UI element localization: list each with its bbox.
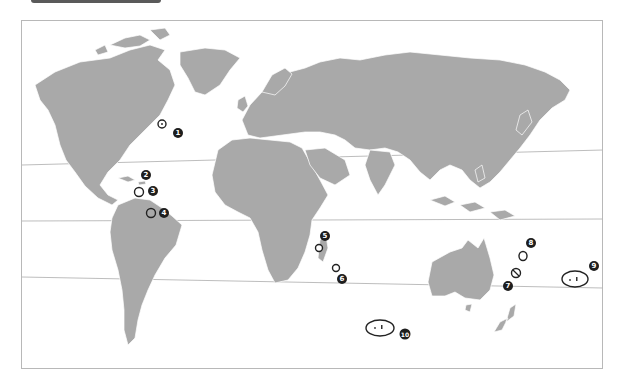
marker-3-label: 3 (151, 187, 156, 195)
great-britain (237, 96, 248, 112)
south-america (110, 198, 182, 345)
north-america (35, 45, 175, 205)
marker-10-label: 10 (401, 331, 409, 338)
marker-9-label: 9 (592, 262, 597, 270)
india (365, 150, 395, 195)
marker-6-ring[interactable] (333, 265, 340, 272)
marker-5-ring[interactable] (316, 245, 323, 252)
marker-6-label: 6 (340, 275, 345, 283)
world-map: 1 2 3 4 5 6 7 8 9 10 (0, 0, 631, 389)
tasmania (465, 304, 472, 312)
marker-7-label: 7 (506, 282, 511, 290)
marker-1-label: 1 (176, 129, 181, 137)
new-zealand (494, 304, 516, 332)
marker-3-ring[interactable] (135, 188, 144, 197)
marker-10-ring[interactable] (366, 320, 394, 336)
tropic-of-capricorn-line (22, 277, 603, 288)
marker-5-label: 5 (323, 232, 328, 240)
greenland (180, 48, 240, 95)
marker-4-label: 4 (162, 209, 167, 217)
marker-4-ring[interactable] (147, 209, 156, 218)
marker-8-ring[interactable] (519, 252, 527, 261)
australia (428, 238, 494, 300)
marker-8-label: 8 (529, 239, 534, 247)
marker-2-label: 2 (144, 171, 149, 179)
marker-9-ring[interactable] (562, 271, 588, 287)
